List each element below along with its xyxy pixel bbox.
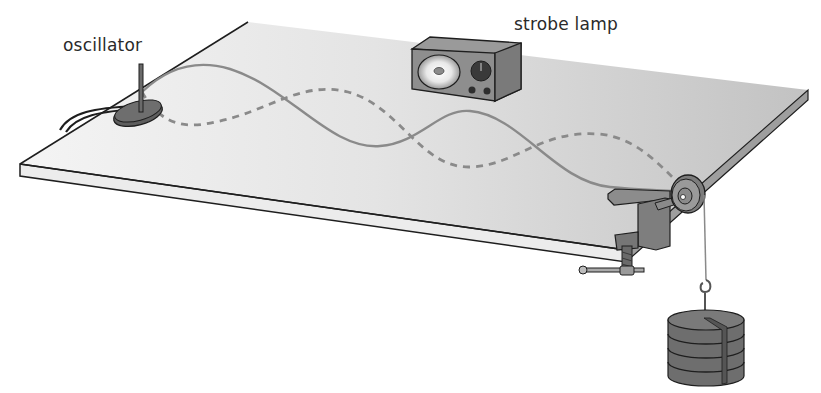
- strobe-lamp-label: strobe lamp: [514, 14, 618, 34]
- strobe-lamp: [412, 37, 521, 101]
- oscillator-label: oscillator: [63, 35, 142, 55]
- pulley: [671, 175, 705, 213]
- hanging-string: [704, 195, 706, 280]
- diagram-drawing: [0, 0, 821, 393]
- slotted-masses: [668, 310, 744, 386]
- experiment-diagram: oscillator strobe lamp: [0, 0, 821, 393]
